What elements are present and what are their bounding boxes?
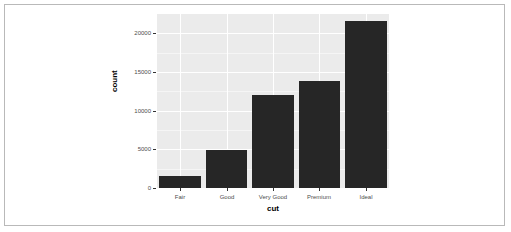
y-tick-mark — [153, 188, 156, 189]
plot-root: 05000100001500020000 FairGoodVery GoodPr… — [0, 0, 511, 232]
x-tick-mark — [319, 188, 320, 191]
x-tick-mark — [273, 188, 274, 191]
gridline-major-vertical — [180, 14, 181, 188]
x-tick-mark — [227, 188, 228, 191]
y-tick-mark — [153, 72, 156, 73]
y-tick-label: 10000 — [120, 108, 151, 114]
x-tick-label: Fair — [155, 194, 205, 200]
x-tick-label: Ideal — [341, 194, 391, 200]
y-tick-mark — [153, 149, 156, 150]
y-tick-label: 20000 — [120, 30, 151, 36]
x-axis-title: cut — [157, 205, 389, 213]
x-tick-mark — [180, 188, 181, 191]
y-tick-label: 5000 — [120, 146, 151, 152]
y-tick-label: 15000 — [120, 69, 151, 75]
bar — [252, 95, 294, 188]
x-tick-label: Very Good — [248, 194, 298, 200]
bar — [299, 81, 341, 188]
bar — [206, 150, 248, 188]
x-tick-mark — [366, 188, 367, 191]
bar — [159, 176, 201, 188]
y-tick-mark — [153, 111, 156, 112]
plot-panel — [157, 14, 389, 188]
x-tick-label: Premium — [294, 194, 344, 200]
bar — [345, 21, 387, 188]
y-tick-mark — [153, 33, 156, 34]
y-tick-label: 0 — [120, 185, 151, 191]
x-tick-label: Good — [202, 194, 252, 200]
y-axis-title: count — [111, 70, 119, 92]
